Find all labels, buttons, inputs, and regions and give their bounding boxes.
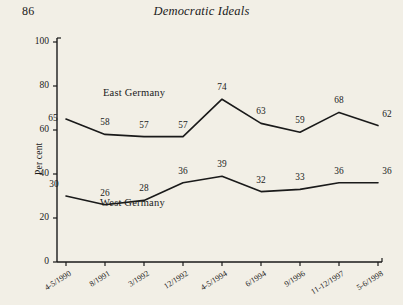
y-tick-label: 80 — [23, 81, 49, 91]
data-label: 33 — [295, 172, 304, 182]
chart-series-lines — [66, 99, 378, 205]
data-label: 36 — [382, 166, 391, 176]
data-label: 58 — [100, 117, 109, 127]
data-label: 65 — [48, 113, 57, 123]
data-label: 30 — [49, 179, 58, 189]
chart-axes — [53, 38, 382, 266]
line-chart: 020406080100 Per cent 4-5/19908/19913/19… — [0, 0, 403, 305]
data-label: 57 — [139, 120, 148, 130]
series-label-west-germany: West Germany — [100, 197, 165, 208]
book-page: 86 Democratic Ideals 020406080100 Per ce… — [0, 0, 403, 305]
series-label-east-germany: East Germany — [103, 87, 165, 98]
data-label: 36 — [178, 166, 187, 176]
series-line-east — [66, 99, 378, 136]
data-label: 63 — [256, 106, 265, 116]
data-label: 74 — [217, 82, 226, 92]
data-label: 36 — [334, 166, 343, 176]
y-axis-title: Per cent — [34, 143, 44, 175]
y-tick-label: 20 — [23, 213, 49, 223]
y-tick-label: 60 — [23, 125, 49, 135]
data-label: 57 — [178, 120, 187, 130]
data-label: 39 — [217, 159, 226, 169]
chart-canvas — [0, 0, 403, 305]
data-label: 32 — [256, 175, 265, 185]
data-label: 62 — [382, 109, 391, 119]
y-tick-label: 0 — [23, 257, 49, 267]
data-label: 28 — [139, 183, 148, 193]
data-label: 59 — [295, 115, 304, 125]
y-tick-label: 100 — [23, 37, 49, 47]
data-label: 68 — [334, 95, 343, 105]
